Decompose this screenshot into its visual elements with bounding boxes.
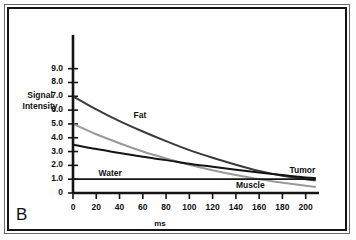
x-axis-tick-label: 80 — [153, 202, 179, 212]
y-axis-tick-label: 9.0 — [37, 63, 63, 73]
curve-label-water: Water — [99, 168, 122, 178]
y-axis-tick-label: 8.0 — [37, 76, 63, 86]
y-axis-tick-label: 1.0 — [37, 173, 63, 183]
y-axis-tick-label: 0 — [37, 187, 63, 197]
y-axis-tick-label: 4.0 — [37, 132, 63, 142]
x-axis-title: ms — [140, 219, 180, 228]
x-axis-tick-label: 160 — [246, 202, 272, 212]
x-axis-tick-label: 100 — [176, 202, 202, 212]
x-axis-tick-label: 140 — [223, 202, 249, 212]
x-axis-tick-label: 0 — [60, 202, 86, 212]
curve-label-fat: Fat — [134, 110, 147, 120]
x-axis-tick-label: 60 — [130, 202, 156, 212]
y-axis-title-line1: Signal — [27, 90, 53, 100]
y-axis-tick-label: 3.0 — [37, 146, 63, 156]
figure-panel: 01.02.03.04.05.06.07.08.09.0020406080100… — [0, 0, 356, 240]
x-axis-tick-label: 40 — [107, 202, 133, 212]
y-axis-title-line2: Intensity — [23, 101, 58, 111]
curve-label-muscle: Muscle — [236, 180, 265, 190]
y-axis-tick-label: 2.0 — [37, 159, 63, 169]
panel-label: B — [16, 205, 28, 225]
y-axis-tick-label: 5.0 — [37, 118, 63, 128]
x-axis-tick-label: 180 — [269, 202, 295, 212]
x-axis-tick-label: 20 — [83, 202, 109, 212]
y-axis-title: Signal Intensity — [12, 90, 68, 112]
x-axis-tick-label: 120 — [200, 202, 226, 212]
x-axis-tick-label: 200 — [293, 202, 319, 212]
curve-label-tumor: Tumor — [289, 165, 315, 175]
